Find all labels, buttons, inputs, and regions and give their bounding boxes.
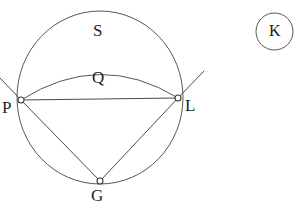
- vertex-marker-g: [97, 178, 103, 184]
- point-label-l: L: [185, 97, 195, 114]
- point-label-g: G: [91, 187, 103, 204]
- region-label-q: Q: [92, 69, 104, 86]
- chord-pl: [21, 98, 178, 100]
- vertex-marker-p: [18, 97, 24, 103]
- segment-pg: [21, 100, 100, 181]
- geometry-figure: P L G S Q K: [0, 0, 303, 212]
- point-label-p: P: [2, 99, 11, 116]
- region-label-s: S: [93, 22, 102, 39]
- segment-gl: [100, 98, 178, 181]
- vertex-marker-l: [175, 95, 181, 101]
- figure-canvas: [0, 0, 303, 212]
- circle-label-k: K: [269, 23, 281, 39]
